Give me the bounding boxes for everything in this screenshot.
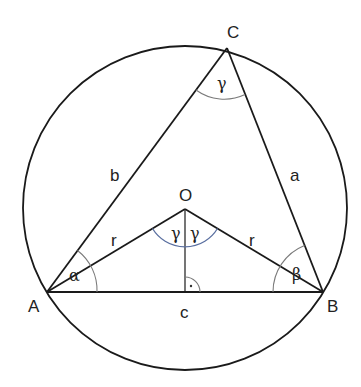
angle-label-gamma-O-right: γ [190,224,200,243]
right-angle-marker [185,277,200,292]
right-angle-dot [190,285,192,287]
angle-label-gamma-O-left: γ [171,224,181,243]
circumcircle-diagram: A B C O b a c r r γ α β γ γ [0,0,361,387]
side-label-b: b [110,166,119,185]
radius-OB [185,209,323,292]
radius-OA [47,209,185,292]
side-a [227,48,323,292]
angle-label-alpha: α [69,266,80,285]
radius-label-right: r [249,231,255,250]
center-label-O: O [179,186,192,205]
radius-label-left: r [111,231,117,250]
angle-label-gamma-C: γ [217,74,227,93]
angle-label-beta: β [292,265,301,284]
vertex-label-C: C [227,23,239,42]
vertex-label-B: B [327,297,338,316]
side-b [47,48,227,292]
vertex-label-A: A [28,297,40,316]
side-label-c: c [180,303,189,322]
side-label-a: a [290,166,300,185]
